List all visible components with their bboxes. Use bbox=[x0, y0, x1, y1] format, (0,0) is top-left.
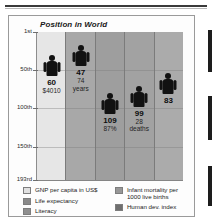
person-icon-body bbox=[134, 92, 145, 107]
y-axis-tick-label: 100th bbox=[10, 104, 32, 110]
data-point-rank-label: 83 bbox=[155, 96, 181, 105]
chart-figure: Position in World 1st50th100th150th193rd… bbox=[8, 15, 195, 217]
person-icon bbox=[39, 55, 65, 77]
legend-item[interactable]: Literacy bbox=[23, 207, 107, 215]
person-icon bbox=[126, 86, 152, 108]
data-point-2[interactable]: 4774years bbox=[68, 45, 94, 92]
y-axis-tick-label: 50th bbox=[10, 66, 32, 72]
data-point-unit-label: years bbox=[68, 85, 94, 93]
legend-item-label: Life expectancy bbox=[35, 197, 78, 204]
person-icon bbox=[68, 45, 94, 67]
legend-column-right: Infant mortality per 1000 live birthsHum… bbox=[115, 186, 189, 215]
legend-swatch bbox=[23, 208, 31, 215]
gridline bbox=[38, 180, 183, 181]
person-icon-body bbox=[46, 61, 57, 76]
gridline bbox=[38, 147, 183, 148]
y-axis-tick-label: 1st bbox=[10, 28, 32, 34]
legend-swatch bbox=[115, 187, 123, 194]
plot-area: 1st50th100th150th193rd 60$40104774years1… bbox=[36, 32, 183, 181]
chart-title: Position in World bbox=[40, 20, 107, 29]
legend-item-label: Infant mortality per 1000 live births bbox=[127, 186, 189, 200]
legend-item-label: Literacy bbox=[35, 207, 57, 214]
data-point-value-label: 87% bbox=[97, 125, 123, 133]
person-icon bbox=[155, 73, 181, 95]
y-axis-tick-label: 150th bbox=[10, 143, 32, 149]
chart-legend: GNP per capita in US$Life expectancyLite… bbox=[23, 186, 189, 215]
data-point-value-label: 74 bbox=[68, 77, 94, 85]
data-point-value-label: $4010 bbox=[39, 87, 65, 95]
data-point-rank-label: 60 bbox=[39, 78, 65, 87]
person-icon bbox=[97, 93, 123, 115]
legend-item[interactable]: Life expectancy bbox=[23, 197, 107, 205]
legend-item[interactable]: Human dev. index bbox=[115, 203, 189, 211]
data-point-rank-label: 99 bbox=[126, 109, 152, 118]
chart-column bbox=[155, 32, 183, 180]
person-icon-body bbox=[163, 79, 174, 94]
data-point-4[interactable]: 9928deaths bbox=[126, 86, 152, 133]
legend-swatch bbox=[23, 198, 31, 205]
person-icon-body bbox=[105, 99, 116, 114]
person-icon-body bbox=[75, 51, 86, 66]
data-point-5[interactable]: 83 bbox=[155, 73, 181, 105]
legend-item-label: Human dev. index bbox=[127, 203, 176, 210]
page-edge-mark bbox=[208, 166, 212, 206]
page-edge-mark bbox=[208, 96, 212, 140]
legend-item-label: GNP per capita in US$ bbox=[35, 186, 97, 193]
data-point-1[interactable]: 60$4010 bbox=[39, 55, 65, 95]
legend-swatch bbox=[115, 204, 123, 211]
legend-item[interactable]: GNP per capita in US$ bbox=[23, 186, 107, 194]
y-axis-tick-label: 193rd bbox=[10, 176, 32, 182]
data-point-rank-label: 109 bbox=[97, 116, 123, 125]
page-top-rule-secondary bbox=[5, 8, 207, 9]
data-point-rank-label: 47 bbox=[68, 68, 94, 77]
legend-item[interactable]: Infant mortality per 1000 live births bbox=[115, 186, 189, 200]
y-axis-tick-mark bbox=[33, 32, 38, 33]
data-point-3[interactable]: 10987% bbox=[97, 93, 123, 133]
page-edge-mark bbox=[208, 30, 212, 72]
chart-column bbox=[37, 32, 66, 180]
data-point-value-label: 28 bbox=[126, 118, 152, 126]
data-point-unit-label: deaths bbox=[126, 125, 152, 133]
legend-column-left: GNP per capita in US$Life expectancyLite… bbox=[23, 186, 107, 215]
legend-swatch bbox=[23, 187, 31, 194]
page-top-rule bbox=[5, 5, 207, 7]
